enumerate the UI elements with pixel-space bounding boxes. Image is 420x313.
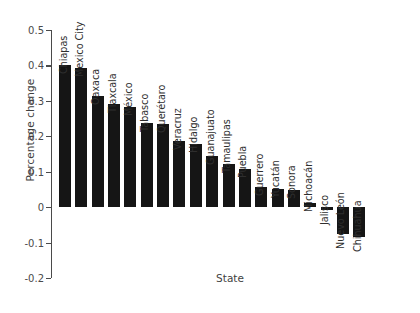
- y-tick-label: 0.4: [0, 60, 44, 71]
- bar-label: Chihuahua: [352, 201, 364, 253]
- bar: [157, 124, 169, 207]
- bar-label: México: [123, 82, 135, 116]
- bar: [92, 96, 104, 207]
- y-tick-label: 0.1: [0, 166, 44, 177]
- bar-label: Sonora: [286, 165, 298, 199]
- y-tick-mark: [46, 278, 51, 279]
- y-axis-line: [51, 30, 52, 278]
- bar-label: Tabasco: [139, 94, 151, 132]
- bar-chart: Percentage change 0.50.40.30.20.10-0.1-0…: [0, 0, 420, 313]
- y-tick-label: 0.3: [0, 95, 44, 106]
- bar: [124, 107, 136, 207]
- bar-label: Tlaxcala: [107, 74, 119, 114]
- x-axis-title: State: [55, 272, 405, 284]
- bar-label: Michoacán: [303, 161, 315, 212]
- y-tick-label: 0: [0, 202, 44, 213]
- bar: [108, 104, 120, 207]
- bar: [173, 141, 185, 208]
- y-tick-label: -0.2: [0, 273, 44, 284]
- bar-label: Nuevo León: [335, 192, 347, 249]
- bar: [75, 68, 87, 207]
- bar-label: Jalisco: [319, 195, 331, 225]
- y-tick-label: 0.2: [0, 131, 44, 142]
- bar-label: Oaxaca: [90, 69, 102, 105]
- bar: [59, 65, 71, 207]
- bar-label: Hidalgo: [188, 117, 200, 153]
- y-tick-label: -0.1: [0, 237, 44, 248]
- plot-area: ChiapasMexico CityOaxacaTlaxcalaMéxicoTa…: [55, 28, 413, 278]
- bar-label: Yucatán: [270, 161, 282, 199]
- bar-label: Guerrero: [254, 153, 266, 195]
- bar-label: Veracruz: [172, 108, 184, 150]
- bar-label: Querétaro: [156, 84, 168, 132]
- bar-label: Mexico City: [74, 22, 86, 77]
- y-tick-label: 0.5: [0, 25, 44, 36]
- bar: [190, 144, 202, 207]
- bar-label: Guanajuato: [205, 110, 217, 166]
- bar-label: Chiapas: [58, 35, 70, 73]
- bar-label: Tamaulipas: [221, 119, 233, 173]
- bar: [141, 123, 153, 207]
- bar-label: Puebla: [237, 146, 249, 178]
